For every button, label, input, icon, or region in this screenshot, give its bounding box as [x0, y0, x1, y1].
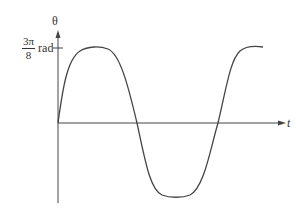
- theta-vs-time-diagram: [0, 0, 296, 213]
- y-axis-label: θ: [52, 14, 58, 29]
- x-axis-arrow-icon: [278, 121, 286, 126]
- amplitude-label: 3π 8 rad: [22, 36, 53, 61]
- amplitude-denominator: 8: [26, 49, 32, 61]
- x-axis-label: t: [287, 116, 290, 131]
- amplitude-numerator: 3π: [22, 36, 35, 49]
- amplitude-unit: rad: [38, 41, 53, 56]
- y-axis-arrow-icon: [56, 30, 61, 38]
- theta-curve: [58, 46, 263, 197]
